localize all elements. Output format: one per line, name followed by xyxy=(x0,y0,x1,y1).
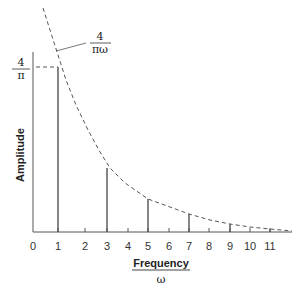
x-tick-label: 8 xyxy=(206,240,212,252)
x-tick-label: 11 xyxy=(264,240,275,252)
x-tick-label: 7 xyxy=(186,240,192,252)
envelope-label-leader xyxy=(56,43,86,51)
y-reference-label: 4 π xyxy=(12,56,30,82)
bars xyxy=(58,67,270,232)
x-tick-label: 4 xyxy=(125,240,131,252)
x-tick-label: 2 xyxy=(82,240,88,252)
x-tick-label: 0 xyxy=(30,240,36,252)
envelope-denominator: πω xyxy=(92,43,108,56)
x-axis-title-numerator: Frequency xyxy=(133,257,190,269)
x-axis-title-denominator: ω xyxy=(157,273,166,286)
envelope-curve xyxy=(43,8,292,231)
chart: 01234567891011 4 π 4 πω Amplitude Freque… xyxy=(0,0,302,289)
x-tick-label: 1 xyxy=(55,240,61,252)
envelope-numerator: 4 xyxy=(97,30,104,43)
y-ref-denominator: π xyxy=(17,69,24,82)
x-tick-label: 3 xyxy=(104,240,110,252)
x-tick-label: 6 xyxy=(166,240,172,252)
x-axis-title: Frequency ω xyxy=(132,257,190,286)
envelope-label: 4 πω xyxy=(90,30,111,56)
y-ref-numerator: 4 xyxy=(18,56,25,69)
x-tick-label: 9 xyxy=(227,240,233,252)
x-tick-label: 5 xyxy=(145,240,151,252)
axes xyxy=(33,52,292,232)
x-tick-label: 10 xyxy=(244,240,256,252)
y-axis-title: Amplitude xyxy=(14,128,26,182)
